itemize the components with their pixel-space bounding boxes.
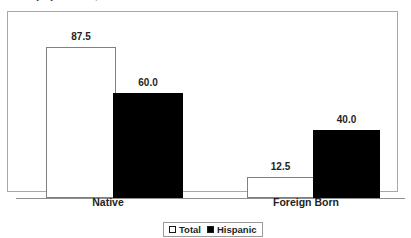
black-square-icon (207, 226, 214, 233)
value-label-native-hispanic: 60.0 (113, 77, 183, 88)
category-label-native: Native (72, 196, 144, 208)
chart-title: population, 2000 (36, 0, 127, 1)
legend-item-hispanic[interactable]: Hispanic (207, 225, 257, 235)
legend-label-total: Total (179, 225, 201, 235)
chart-plot-area: 87.5 60.0 12.5 40.0 (7, 11, 398, 192)
value-label-foreign-born-total: 12.5 (247, 161, 314, 172)
bar-native-total[interactable] (46, 47, 116, 198)
chart-legend: Total Hispanic (163, 222, 263, 237)
bar-native-hispanic[interactable] (113, 93, 183, 198)
legend-item-total[interactable]: Total (169, 225, 201, 235)
legend-label-hispanic: Hispanic (217, 225, 257, 235)
bar-foreign-born-total[interactable] (247, 177, 314, 198)
white-square-icon (169, 226, 176, 233)
category-label-foreign-born: Foreign Born (270, 196, 342, 208)
bar-foreign-born-hispanic[interactable] (313, 130, 380, 198)
chart-title-strip: population, 2000 (0, 0, 411, 9)
value-label-native-total: 87.5 (46, 31, 116, 42)
value-label-foreign-born-hispanic: 40.0 (313, 114, 380, 125)
